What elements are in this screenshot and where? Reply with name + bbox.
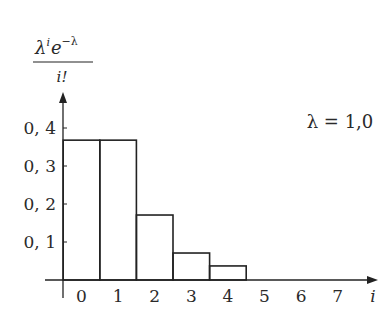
x-axis-label: i <box>370 286 375 306</box>
x-tick-label: 4 <box>222 286 233 306</box>
x-ticks: 01234567 <box>76 286 343 306</box>
histogram-bar-0 <box>63 140 100 280</box>
y-tick-label: 0, 1 <box>24 232 56 252</box>
x-axis-arrow-icon <box>367 276 378 284</box>
x-tick-label: 1 <box>113 286 124 306</box>
x-tick-label: 6 <box>296 286 307 306</box>
x-tick-label: 5 <box>259 286 270 306</box>
y-tick-label: 0, 3 <box>24 156 56 176</box>
y-axis-label-fraction: λie−λ i! <box>33 35 93 86</box>
x-tick-label: 3 <box>186 286 197 306</box>
y-tick-label: 0, 2 <box>24 194 56 214</box>
lambda-annotation: λ = 1,0 <box>307 111 374 132</box>
y-axis-arrow-icon <box>59 92 67 103</box>
histogram-bar-4 <box>210 266 247 280</box>
svg-text:i!: i! <box>57 68 68 86</box>
y-ticks: 0, 10, 20, 30, 4 <box>24 118 67 252</box>
histogram-bar-2 <box>136 215 173 280</box>
x-tick-label: 2 <box>149 286 160 306</box>
poisson-histogram-chart: 0, 10, 20, 30, 4 01234567 i λie−λ i! λ =… <box>0 0 389 326</box>
svg-text:λie−λ: λie−λ <box>34 35 78 58</box>
y-tick-label: 0, 4 <box>24 118 56 138</box>
x-tick-label: 7 <box>332 286 343 306</box>
histogram-bar-1 <box>100 140 137 280</box>
histogram-bars <box>63 140 246 280</box>
histogram-bar-3 <box>173 253 210 280</box>
x-tick-label: 0 <box>76 286 87 306</box>
